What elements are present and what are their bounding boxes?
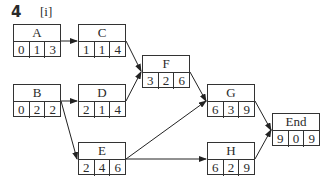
node-label: F [143,56,189,73]
earliest-finish: 9 [238,160,254,176]
edge-h-end [255,130,271,159]
edge-e-g [126,101,206,159]
node-label: B [14,85,60,102]
node-c: C 114 [78,24,126,57]
duration: 2 [29,102,45,118]
duration: 0 [288,131,304,147]
node-a: A 013 [13,24,61,57]
earliest-start: 0 [14,102,29,118]
earliest-finish: 4 [109,102,125,118]
node-d: D 214 [78,84,126,117]
node-label: D [79,85,125,102]
earliest-finish: 6 [173,73,189,89]
earliest-start: 0 [14,42,29,58]
node-f: F 326 [142,55,190,88]
node-label: C [79,25,125,42]
node-end: End 909 [272,113,320,146]
earliest-finish: 9 [303,131,319,147]
duration: 3 [223,102,239,118]
earliest-finish: 3 [44,42,60,58]
node-e: E 246 [78,142,126,175]
edge-c-f [126,41,141,71]
earliest-start: 1 [79,42,94,58]
node-g: G 639 [207,84,255,117]
node-label: H [208,143,254,160]
duration: 4 [94,160,110,176]
earliest-start: 6 [208,102,223,118]
node-label: G [208,85,254,102]
earliest-finish: 4 [109,42,125,58]
edge-f-g [190,72,206,101]
edge-g-end [255,101,271,130]
duration: 1 [94,102,110,118]
duration: 2 [158,73,174,89]
node-h: H 629 [207,142,255,175]
node-b: B 022 [13,84,61,117]
earliest-finish: 6 [109,160,125,176]
node-label: End [273,114,319,131]
node-label: E [79,143,125,160]
earliest-start: 6 [208,160,223,176]
node-label: A [14,25,60,42]
earliest-start: 9 [273,131,288,147]
earliest-start: 2 [79,160,94,176]
duration: 1 [29,42,45,58]
duration: 1 [94,42,110,58]
edge-d-f [126,72,141,101]
duration: 2 [223,160,239,176]
earliest-finish: 9 [238,102,254,118]
earliest-start: 3 [143,73,158,89]
edge-b-e [61,101,77,159]
earliest-start: 2 [79,102,94,118]
earliest-finish: 2 [44,102,60,118]
